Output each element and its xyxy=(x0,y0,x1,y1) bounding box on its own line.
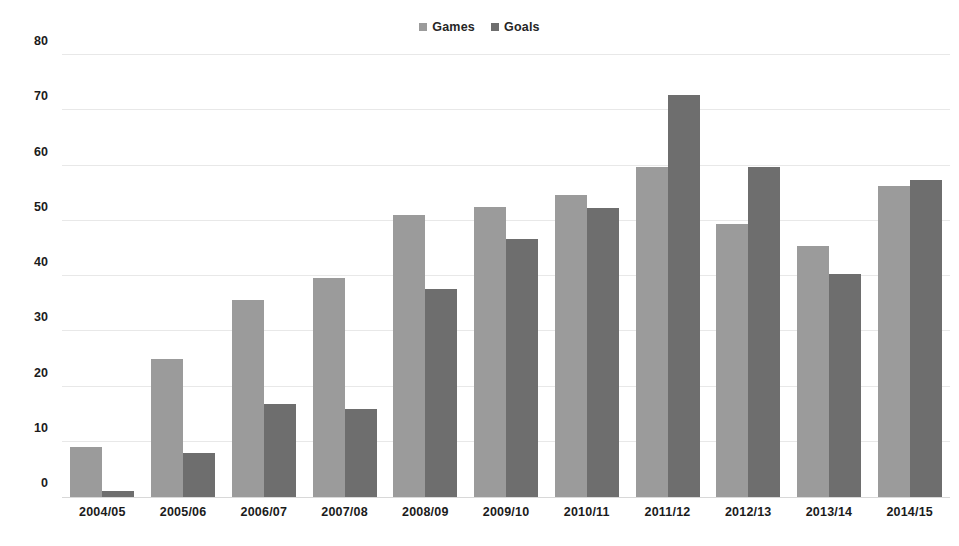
bar-games[interactable] xyxy=(151,359,183,497)
plot-area: 80706050403020100 xyxy=(62,55,950,497)
y-axis-tick-label: 10 xyxy=(34,421,48,435)
bar-goals[interactable] xyxy=(587,208,619,498)
bar-goals[interactable] xyxy=(506,239,538,497)
chart-legend: Games Goals xyxy=(0,18,959,36)
grouped-bar-chart: Games Goals 80706050403020100 2004/05200… xyxy=(0,0,959,546)
bar-goals[interactable] xyxy=(425,289,457,497)
x-axis-tick-label: 2011/12 xyxy=(627,505,708,519)
bar-games[interactable] xyxy=(232,300,264,497)
bar-goals[interactable] xyxy=(668,95,700,497)
legend-entry-games[interactable]: Games xyxy=(419,21,475,34)
bar-games[interactable] xyxy=(313,278,345,497)
y-axis-tick-label: 20 xyxy=(34,366,48,380)
bar-group xyxy=(62,55,143,497)
bar-goals[interactable] xyxy=(183,453,215,497)
bar-group xyxy=(304,55,385,497)
bar-games[interactable] xyxy=(70,447,102,497)
bar-games[interactable] xyxy=(878,186,910,497)
x-axis-tick-label: 2009/10 xyxy=(466,505,547,519)
bar-group xyxy=(143,55,224,497)
y-axis-tick-label: 80 xyxy=(34,34,48,48)
y-axis-tick-label: 60 xyxy=(34,145,48,159)
x-axis-tick-label: 2012/13 xyxy=(708,505,789,519)
x-axis-tick-label: 2014/15 xyxy=(869,505,950,519)
bar-groups xyxy=(62,55,950,497)
bar-games[interactable] xyxy=(716,224,748,497)
bar-games[interactable] xyxy=(474,207,506,497)
bar-group xyxy=(385,55,466,497)
square-swatch-icon xyxy=(491,23,499,31)
bar-games[interactable] xyxy=(636,167,668,497)
x-axis-labels: 2004/052005/062006/072007/082008/092009/… xyxy=(62,505,950,519)
bar-goals[interactable] xyxy=(910,180,942,497)
x-axis-tick-label: 2008/09 xyxy=(385,505,466,519)
square-swatch-icon xyxy=(419,23,427,31)
bar-games[interactable] xyxy=(393,215,425,497)
legend-label-goals: Goals xyxy=(504,21,540,34)
bar-goals[interactable] xyxy=(748,167,780,497)
bar-group xyxy=(869,55,950,497)
bar-goals[interactable] xyxy=(829,274,861,497)
x-axis-tick-label: 2004/05 xyxy=(62,505,143,519)
x-axis-tick-label: 2007/08 xyxy=(304,505,385,519)
y-axis-tick-label: 70 xyxy=(34,89,48,103)
y-axis-tick-label: 0 xyxy=(41,476,48,490)
x-axis-tick-label: 2006/07 xyxy=(223,505,304,519)
y-axis-tick-label: 40 xyxy=(34,255,48,269)
bar-group xyxy=(466,55,547,497)
bar-group xyxy=(546,55,627,497)
bar-group xyxy=(627,55,708,497)
bar-goals[interactable] xyxy=(345,409,377,497)
bar-games[interactable] xyxy=(555,195,587,497)
y-axis-tick-label: 50 xyxy=(34,200,48,214)
y-axis-tick-label: 30 xyxy=(34,310,48,324)
x-axis-tick-label: 2010/11 xyxy=(546,505,627,519)
legend-entry-goals[interactable]: Goals xyxy=(491,21,540,34)
bar-group xyxy=(708,55,789,497)
legend-label-games: Games xyxy=(432,21,475,34)
bar-games[interactable] xyxy=(797,246,829,497)
x-axis-tick-label: 2005/06 xyxy=(143,505,224,519)
bar-goals[interactable] xyxy=(264,404,296,497)
x-axis-tick-label: 2013/14 xyxy=(789,505,870,519)
bar-goals[interactable] xyxy=(102,491,134,497)
bar-group xyxy=(789,55,870,497)
x-axis-baseline xyxy=(62,497,950,498)
bar-group xyxy=(223,55,304,497)
